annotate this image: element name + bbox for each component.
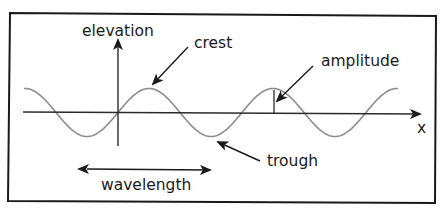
elevation-label: elevation [82,22,154,40]
x-axis-label: x [417,119,426,137]
amplitude-pointer-arrow [277,66,313,101]
x-axis [23,112,420,114]
trough-label: trough [267,152,318,170]
crest-label: crest [194,34,232,52]
wave-diagram: elevation crest amplitude x trough wavel… [0,0,442,215]
trough-pointer-arrow [218,142,260,161]
wavelength-label: wavelength [101,176,191,194]
crest-pointer-arrow [153,47,188,84]
wavelength-arrow [87,169,210,170]
amplitude-label: amplitude [321,52,399,70]
